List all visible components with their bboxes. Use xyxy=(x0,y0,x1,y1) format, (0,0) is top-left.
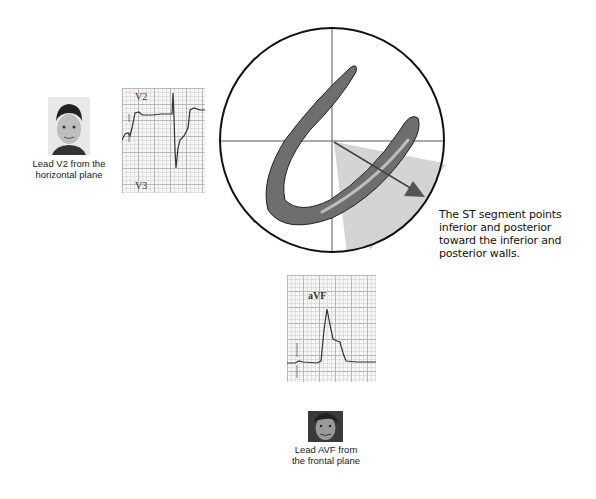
ecg-trace-v2 xyxy=(122,88,205,193)
annotation-line: inferior and posterior xyxy=(439,221,596,234)
caption-line: the frontal plane xyxy=(276,455,376,466)
annotation-line: toward the inferior and xyxy=(439,234,596,247)
annotation-line: The ST segment points xyxy=(439,208,596,221)
caption-line: Lead V2 from the xyxy=(20,158,118,169)
bottom-caption: Lead AVF from the frontal plane xyxy=(276,444,376,466)
portrait-photo-lead-v2 xyxy=(48,97,90,155)
annotation-line: posterior walls. xyxy=(439,247,596,260)
portrait-photo-lead-avf xyxy=(308,411,343,442)
caption-line: Lead AVF from xyxy=(276,444,376,455)
st-annotation: The ST segment points inferior and poste… xyxy=(439,208,596,260)
ecg-strip-avf: aVF xyxy=(287,275,376,382)
ecg-trace-avf xyxy=(287,275,376,382)
caption-line: horizontal plane xyxy=(20,169,118,180)
ecg-strip-v2: V2 V3 xyxy=(122,88,205,193)
left-caption: Lead V2 from the horizontal plane xyxy=(20,158,118,180)
